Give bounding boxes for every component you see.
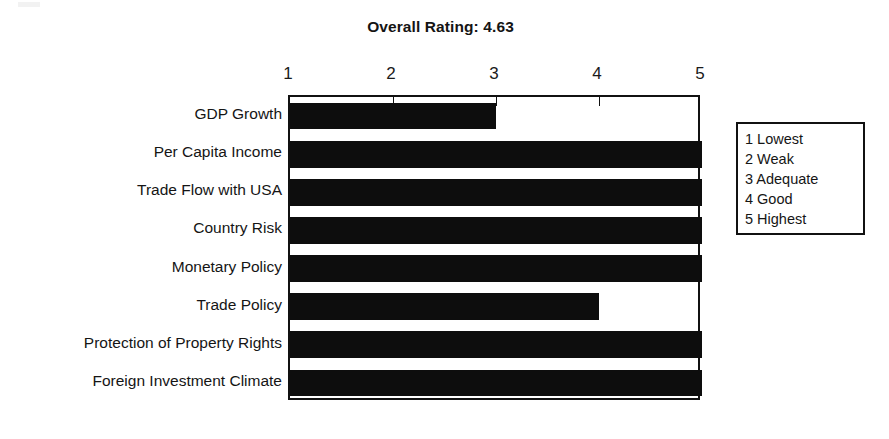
legend-item: 3 Adequate <box>745 169 863 189</box>
bar-row <box>290 103 698 130</box>
bar-row <box>290 331 698 358</box>
legend: 1 Lowest2 Weak3 Adequate4 Good5 Highest <box>736 122 865 235</box>
x-axis-tick-label: 4 <box>592 64 601 84</box>
chart-title: Overall Rating: 4.63 <box>0 18 889 36</box>
x-axis-tick-label: 3 <box>489 64 498 84</box>
plot-area <box>288 95 700 400</box>
bar <box>290 293 599 320</box>
x-axis-tick-label: 5 <box>695 64 704 84</box>
bar <box>290 331 702 358</box>
bar <box>290 141 702 168</box>
category-label: Protection of Property Rights <box>84 335 282 351</box>
chart-page: Overall Rating: 4.63 12345 GDP GrowthPer… <box>0 0 889 439</box>
bar <box>290 217 702 244</box>
category-label: Monetary Policy <box>172 259 282 275</box>
scan-artifact <box>18 2 40 7</box>
category-label: Per Capita Income <box>154 144 282 160</box>
bar <box>290 103 496 130</box>
category-label: Trade Policy <box>196 297 282 313</box>
bar <box>290 370 702 397</box>
bar-row <box>290 179 698 206</box>
legend-item: 5 Highest <box>745 209 863 229</box>
bar <box>290 179 702 206</box>
legend-item: 4 Good <box>745 189 863 209</box>
y-axis-category-labels: GDP GrowthPer Capita IncomeTrade Flow wi… <box>0 95 282 400</box>
bar-row <box>290 370 698 397</box>
bar-row <box>290 141 698 168</box>
x-axis-tick-label: 2 <box>386 64 395 84</box>
category-label: GDP Growth <box>194 106 282 122</box>
bar-row <box>290 293 698 320</box>
chart-title-text: Overall Rating: 4.63 <box>367 18 514 36</box>
legend-item: 2 Weak <box>745 149 863 169</box>
x-axis-tick-labels: 12345 <box>288 64 700 88</box>
bar-row <box>290 255 698 282</box>
x-axis-tick-label: 1 <box>283 64 292 84</box>
legend-item: 1 Lowest <box>745 129 863 149</box>
bar-row <box>290 217 698 244</box>
category-label: Foreign Investment Climate <box>92 373 282 389</box>
category-label: Trade Flow with USA <box>137 182 282 198</box>
category-label: Country Risk <box>193 220 282 236</box>
plot-inner <box>290 97 698 398</box>
bar <box>290 255 702 282</box>
